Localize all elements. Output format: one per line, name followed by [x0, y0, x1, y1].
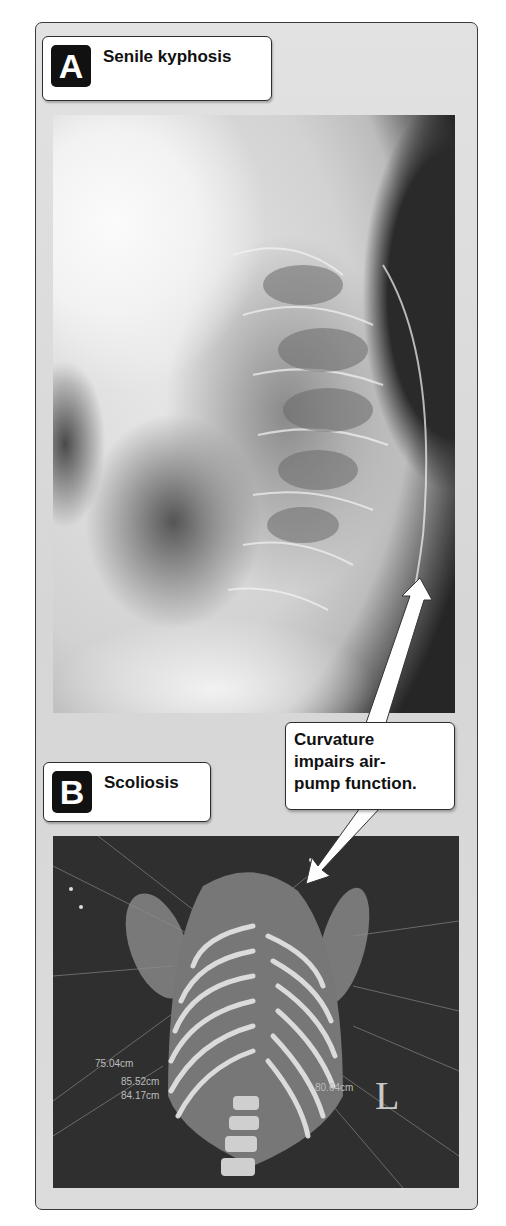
arrow-down-to-scoliosis-icon — [306, 808, 380, 884]
curvature-callout: Curvature impairs air- pump function. — [285, 722, 455, 810]
callout-arrows — [0, 0, 506, 1226]
callout-line-1: Curvature — [294, 729, 446, 751]
arrow-up-to-kyphosis-icon — [365, 578, 432, 726]
callout-line-2: impairs air- — [294, 751, 446, 773]
callout-line-3: pump function. — [294, 773, 446, 795]
